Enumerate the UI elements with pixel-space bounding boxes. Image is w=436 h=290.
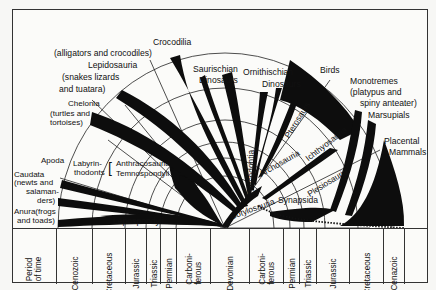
period-cell: Cenazoic: [383, 229, 404, 284]
period-cell: Jurassic: [316, 229, 349, 284]
label-ornithischian-1: Ornithischian: [243, 68, 293, 78]
label-crocodilia-sub: (alligators and crocodiles): [54, 49, 152, 59]
label-lepidosauria: Lepidosauria: [88, 61, 137, 71]
period-cell: Jurassic: [125, 229, 146, 284]
period-timeline: Periodof time Cenozoic Cretaceous Jurass…: [12, 228, 428, 284]
period-cell: Cenozoic: [56, 229, 92, 284]
period-cell: Cretaceous: [349, 229, 383, 284]
label-saurischian-1: Saurischian: [193, 65, 238, 75]
period-cell-empty: [404, 229, 428, 284]
label-monotremes-sub1: (platypus and: [350, 88, 402, 98]
period-cell: Devonian: [210, 229, 249, 284]
label-saurischian-2: Dinosaurs: [199, 76, 238, 86]
label-placental-2: Mammals: [389, 148, 426, 158]
label-lepidosauria-sub1: (snakes lizards: [62, 73, 119, 83]
timeline-header-cell: Periodof time: [12, 229, 56, 284]
period-cell: Permian: [160, 229, 176, 284]
period-cell: Triassic: [299, 229, 316, 284]
label-caudata-4: ders): [37, 197, 55, 206]
label-birds: Birds: [320, 66, 340, 76]
period-cell: Permian: [283, 229, 299, 284]
label-labyrinthodonts-2: thodonts: [74, 169, 105, 178]
label-lepidosauria-sub2: and tuatara): [59, 85, 105, 95]
label-ornithischian-2: Dinosaurs: [262, 80, 301, 90]
label-synapsida: Synapsida: [278, 196, 318, 206]
label-monotremes: Monotremes: [350, 77, 398, 87]
label-marsupials: Marsupials: [368, 111, 410, 121]
label-temnospondyli: Temnospondyli: [116, 170, 169, 179]
label-chelonia-sub2: tortoises): [50, 119, 83, 128]
period-cell: Carboni-ferous: [176, 229, 210, 284]
period-cell: Carboni-ferous: [249, 229, 283, 284]
label-chelonia: Chelonia: [68, 100, 100, 109]
label-crocodilia: Crocodilia: [153, 38, 191, 48]
label-placental-1: Placental: [384, 137, 419, 147]
period-cell: Triassic: [146, 229, 160, 284]
label-anura-2: and toads): [17, 217, 55, 226]
period-cell: Cretaceous: [92, 229, 125, 284]
label-apoda: Apoda: [41, 157, 64, 166]
label-lepospondyli: Lepospondyli: [113, 217, 164, 227]
label-monotremes-sub2: spiny anteater): [360, 99, 417, 109]
brace: [: [108, 159, 112, 177]
label-thecodontia: Thecodontia: [247, 150, 256, 196]
label-anthracosauria: Anthracosauria: [116, 160, 170, 169]
